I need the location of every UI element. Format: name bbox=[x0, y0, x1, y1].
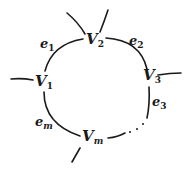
vertex-v2-base: V bbox=[86, 30, 98, 48]
vertex-vm-label: Vm bbox=[82, 129, 103, 146]
edge-e2-label: e2 bbox=[129, 34, 144, 50]
edge-e1-sub: 1 bbox=[48, 43, 54, 53]
vertex-v2-sub: 2 bbox=[98, 39, 104, 49]
vertex-v3-base: V bbox=[143, 66, 155, 84]
v2-external-edge-left bbox=[67, 13, 85, 34]
ellipsis-dot bbox=[129, 131, 131, 133]
edge-e3-label: e3 bbox=[152, 95, 167, 111]
ellipsis-dot bbox=[136, 128, 138, 130]
edge-e1-label: e1 bbox=[40, 37, 55, 53]
vertex-vm-sub: m bbox=[94, 136, 104, 146]
edge-e2-sub: 2 bbox=[137, 40, 143, 50]
ellipsis-dot bbox=[142, 123, 144, 125]
cycle-graph-diagram: V1 V2 V3 Vm e1 e2 e3 em bbox=[0, 0, 191, 170]
vertex-v3-label: V3 bbox=[143, 68, 161, 85]
edge-e3-sub: 3 bbox=[160, 101, 166, 111]
vertex-v1-label: V1 bbox=[35, 74, 53, 91]
v2-external-edge-right bbox=[100, 10, 108, 32]
vertex-v1-base: V bbox=[35, 72, 47, 90]
edge-em-sub: m bbox=[43, 121, 53, 131]
vertex-vm-base: V bbox=[82, 127, 94, 145]
v1-external-edge bbox=[11, 79, 33, 80]
edge-e3 bbox=[147, 87, 149, 118]
v3-external-edge bbox=[158, 73, 181, 75]
vertex-v1-sub: 1 bbox=[47, 81, 53, 91]
vm-external-edge bbox=[72, 148, 80, 162]
vertex-v2-label: V2 bbox=[86, 32, 104, 49]
edge-em-label: em bbox=[35, 115, 53, 131]
edge-vm-continuation bbox=[108, 133, 125, 138]
vertex-v3-sub: 3 bbox=[155, 75, 161, 85]
